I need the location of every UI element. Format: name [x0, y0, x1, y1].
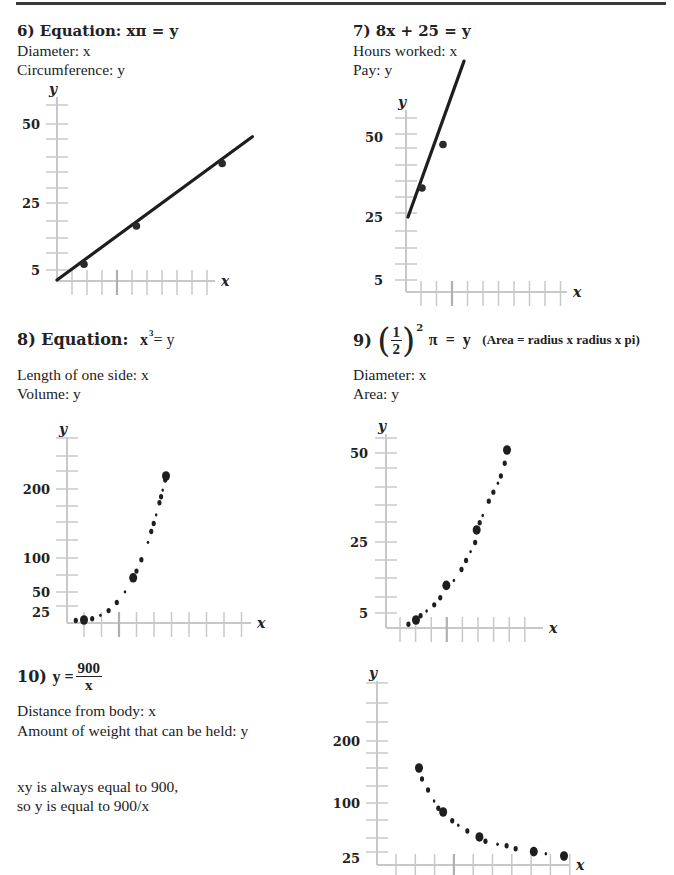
data-point-small [159, 494, 163, 499]
data-point-large [473, 525, 481, 535]
data-point-small [481, 514, 484, 517]
data-point-small [453, 579, 456, 582]
y-tick-label: 100 [23, 551, 50, 566]
data-point-small [406, 622, 410, 627]
data-point-large [129, 573, 137, 583]
data-point-small [505, 843, 509, 848]
data-point-large [442, 581, 450, 591]
y-axis-label: y [377, 418, 387, 434]
y-tick-label: 50 [350, 446, 368, 461]
data-point-small [497, 481, 500, 484]
data-point-small [487, 498, 491, 503]
y-axis-label: y [58, 421, 68, 437]
data-point-small [155, 513, 158, 516]
y-tick-label: 200 [23, 482, 50, 497]
y-tick-label: 5 [31, 263, 40, 278]
data-point-small [503, 461, 507, 466]
data-point [133, 222, 141, 230]
chart10-group: 25100200yx [333, 665, 585, 875]
data-point-small [147, 541, 150, 544]
data-point-small [433, 799, 436, 802]
data-point-small [425, 609, 428, 612]
data-point-small [115, 600, 119, 605]
data-point-small [465, 828, 469, 833]
y-tick-label: 25 [342, 851, 360, 866]
x-axis-label: x [572, 284, 582, 300]
y-axis-label: y [368, 665, 378, 681]
data-point-small [152, 521, 156, 526]
data-point-small [157, 500, 161, 505]
data-point-large [560, 851, 568, 861]
data-point-small [457, 824, 460, 827]
data-point-small [134, 568, 138, 573]
y-tick-label: 200 [333, 734, 360, 749]
data-point [80, 260, 88, 268]
data-point [418, 184, 426, 192]
data-point-small [545, 852, 548, 855]
data-point-small [483, 839, 487, 844]
chart7-group: 52550yx [365, 61, 582, 306]
data-point-small [124, 590, 127, 593]
x-axis-label: x [548, 620, 558, 636]
y-tick-label: 50 [365, 130, 383, 145]
data-point-small [149, 529, 153, 534]
data-point-small [459, 567, 463, 572]
data-point-small [478, 520, 482, 525]
data-point [218, 160, 226, 168]
chart9-group: 52550yx [350, 418, 558, 642]
y-tick-label: 5 [374, 273, 383, 288]
data-point-small [514, 846, 518, 851]
data-point-large [475, 832, 483, 842]
data-point-small [499, 473, 503, 478]
data-point-small [161, 488, 164, 491]
data-point-small [107, 608, 111, 613]
data-point-small [99, 614, 102, 617]
data-point-small [469, 550, 472, 553]
data-point-small [496, 843, 499, 846]
y-tick-label: 25 [32, 605, 50, 620]
data-point-small [90, 616, 94, 621]
data-point-small [473, 540, 477, 545]
data-point [439, 141, 447, 149]
chart6-group: 52550yx [22, 81, 252, 295]
chart8-group: 2550100200yx [23, 421, 266, 637]
y-tick-label: 5 [359, 606, 368, 621]
charts-layer: 52550yx52550yx2550100200yx52550yx2510020… [0, 0, 674, 875]
data-point-small [432, 602, 436, 607]
y-tick-label: 25 [350, 535, 368, 550]
data-point-large [162, 471, 170, 481]
data-point-large [412, 615, 420, 625]
data-point-large [415, 763, 423, 773]
data-point-small [139, 557, 143, 562]
data-point-small [438, 595, 442, 600]
data-point-small [74, 618, 78, 623]
y-tick-label: 25 [22, 196, 40, 211]
series-line [408, 61, 464, 217]
data-point-small [464, 558, 468, 563]
series-line [57, 137, 252, 280]
y-tick-label: 50 [32, 585, 50, 600]
data-point-large [503, 445, 511, 455]
x-axis-label: x [575, 857, 585, 873]
data-point-large [439, 807, 447, 817]
data-point-large [80, 615, 88, 625]
data-point-small [420, 776, 424, 781]
y-axis-label: y [48, 81, 58, 97]
x-axis-label: x [220, 273, 230, 289]
y-axis-label: y [397, 94, 407, 110]
data-point-small [450, 818, 454, 823]
data-point-small [491, 489, 495, 494]
data-point-large [530, 847, 538, 857]
x-axis-label: x [256, 615, 266, 631]
y-tick-label: 25 [365, 210, 383, 225]
y-tick-label: 50 [22, 117, 40, 132]
data-point-small [426, 787, 430, 792]
y-tick-label: 100 [333, 796, 360, 811]
